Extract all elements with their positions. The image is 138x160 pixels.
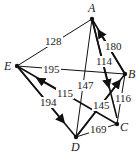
graph-edges (0, 0, 138, 160)
edge-E-B (17, 66, 125, 74)
node-dot-D (74, 135, 78, 139)
node-D: D (71, 141, 80, 153)
weight-E-B: 195 (42, 64, 61, 75)
weight-C-E: 115 (56, 88, 74, 99)
node-dot-B (123, 72, 127, 76)
node-E: E (4, 60, 11, 72)
weight-D-B: 145 (92, 100, 111, 111)
weight-B-A: 180 (104, 41, 123, 52)
weight-A-D: 147 (76, 80, 95, 91)
node-A: A (88, 2, 95, 14)
node-dot-A (90, 17, 94, 21)
weight-B-C: 116 (114, 93, 132, 104)
node-dot-E (15, 64, 19, 68)
node-B: B (128, 68, 135, 80)
node-C: C (120, 121, 128, 133)
weight-E-D: 194 (39, 97, 58, 108)
weight-D-C: 169 (89, 124, 108, 135)
weight-E-A: 128 (44, 36, 63, 47)
node-dot-C (115, 122, 119, 126)
weight-A-C: 114 (95, 56, 113, 67)
